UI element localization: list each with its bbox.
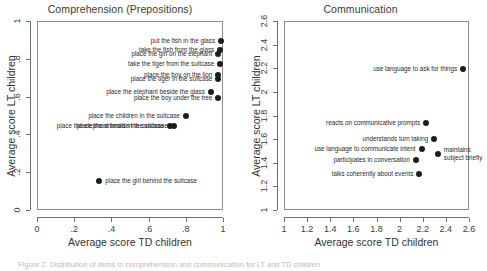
x-tick (111, 218, 112, 222)
x-tick (469, 218, 470, 222)
y-axis-title-comprehension: Average score LT children (5, 21, 17, 210)
x-tick (307, 218, 308, 222)
scatter-point (416, 171, 422, 177)
scatter-point (167, 123, 173, 129)
x-axis-title-communication: Average score TD children (284, 236, 469, 248)
x-tick (284, 218, 285, 222)
panel-comprehension: Comprehension (Prepositions) Average sco… (0, 0, 240, 252)
x-tick-label: .2 (70, 224, 78, 234)
x-tick-label: 2.6 (463, 224, 476, 234)
y-tick (273, 21, 277, 22)
scatter-point (435, 151, 441, 157)
y-tick-label: .6 (12, 93, 22, 101)
x-tick-label: .4 (108, 224, 116, 234)
figure-caption: Figure 2. Distribution of items in compr… (18, 260, 468, 271)
y-tick (26, 172, 30, 173)
y-tick-label: 1 (259, 207, 269, 212)
x-tick (330, 218, 331, 222)
x-axis-title-comprehension: Average score TD children (37, 236, 223, 248)
scatter-point-label: use language to communicate intent (314, 145, 415, 153)
x-tick (377, 218, 378, 222)
scatter-point-label: place the children in the suitcase (88, 113, 179, 121)
x-tick-label: 1.6 (347, 224, 360, 234)
x-tick (446, 218, 447, 222)
x-tick-label: 1 (281, 224, 286, 234)
y-tick (26, 210, 30, 211)
x-tick-label: 0 (34, 224, 39, 234)
x-tick (37, 218, 38, 222)
scatter-point-label: place the girl behind the suitcase (105, 177, 197, 185)
scatter-point (217, 61, 223, 67)
y-tick-label: 1.4 (259, 156, 269, 169)
scatter-point (460, 66, 466, 72)
x-tick (353, 218, 354, 222)
y-tick-label: 2.6 (259, 15, 269, 28)
y-tick-label: .8 (12, 55, 22, 63)
panel-communication: Communication Average score TD children … (240, 0, 481, 252)
y-tick (273, 116, 277, 117)
scatter-point (96, 178, 102, 184)
y-tick (26, 134, 30, 135)
y-tick-label: .2 (12, 168, 22, 176)
x-tick-label: 2 (397, 224, 402, 234)
scatter-point-label: place the girl on the elephant (131, 50, 212, 58)
scatter-point (215, 95, 221, 101)
x-tick (423, 218, 424, 222)
y-tick (273, 45, 277, 46)
y-axis-line (277, 21, 278, 210)
y-tick-label: 0 (12, 207, 22, 212)
scatter-point-label: place the tiger in the suitcase (131, 75, 213, 83)
y-tick-label: 2.2 (259, 62, 269, 75)
scatter-point (215, 51, 221, 57)
scatter-point-label: maintains subject briefly (444, 146, 487, 161)
x-tick-label: .6 (145, 224, 153, 234)
y-tick (273, 139, 277, 140)
scatter-point (215, 76, 221, 82)
x-tick-label: 1.2 (301, 224, 314, 234)
x-tick-label: 1.4 (324, 224, 337, 234)
scatter-point (413, 157, 419, 163)
plot-area-communication (284, 21, 469, 210)
x-tick (400, 218, 401, 222)
scatter-point (183, 113, 189, 119)
x-tick-label: 2.4 (440, 224, 453, 234)
x-tick (149, 218, 150, 222)
y-tick (273, 210, 277, 211)
panel-title-communication: Communication (240, 3, 481, 15)
scatter-point-label: take the tiger from the suitcase (128, 60, 214, 68)
scatter-point-label: put the fish in the glass (151, 37, 215, 45)
x-tick (223, 218, 224, 222)
y-tick (26, 97, 30, 98)
y-tick-label: 2.4 (259, 38, 269, 51)
x-tick-label: 1 (220, 224, 225, 234)
scatter-point-label: place the elephant beside the suitcase (57, 123, 164, 131)
x-tick-label: 2.2 (416, 224, 429, 234)
scatter-point (419, 146, 425, 152)
scatter-point (423, 120, 429, 126)
y-tick-label: 1.8 (259, 109, 269, 122)
y-tick-label: 1.6 (259, 133, 269, 146)
y-tick-label: 1 (12, 18, 22, 23)
y-tick-label: 2 (259, 89, 269, 94)
scatter-point-label: place the boy under the tree (134, 94, 212, 102)
y-tick (273, 68, 277, 69)
scatter-point-label: understands turn taking (363, 135, 429, 143)
y-tick (26, 21, 30, 22)
scatter-point-label: use language to ask for things (373, 65, 457, 73)
scatter-point (431, 136, 437, 142)
scatter-point (218, 38, 224, 44)
x-tick (74, 218, 75, 222)
scatter-point-label: reacts on communicative prompts (326, 119, 420, 127)
y-tick (273, 92, 277, 93)
x-tick (186, 218, 187, 222)
scatter-point-label: talks coherently about events (332, 170, 414, 178)
y-axis-line (30, 21, 31, 210)
y-tick (26, 59, 30, 60)
y-tick-label: .4 (12, 131, 22, 139)
y-tick-label: 1.2 (259, 180, 269, 193)
x-tick-label: .8 (182, 224, 190, 234)
panel-title-comprehension: Comprehension (Prepositions) (0, 3, 240, 15)
y-tick (273, 163, 277, 164)
y-tick (273, 186, 277, 187)
